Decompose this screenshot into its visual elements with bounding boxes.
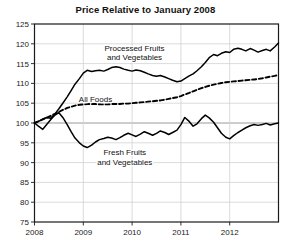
series-annotations: Processed FruitsProcessed Fruitsand Vege… (79, 44, 165, 167)
y-tick-label: 85 (20, 178, 29, 187)
processed-label: Processed Fruits (105, 44, 165, 53)
y-axis-ticks: 7580859095100105110115120125 (16, 20, 35, 227)
y-tick-label: 120 (16, 40, 30, 49)
x-axis-ticks: 20082009201020112012 (26, 222, 240, 237)
fresh-label: and Vegetables (97, 158, 152, 167)
series-line-2 (35, 113, 279, 148)
series-line-1 (35, 75, 279, 123)
y-tick-label: 90 (20, 159, 29, 168)
y-tick-label: 95 (20, 139, 29, 148)
y-tick-label: 100 (16, 119, 30, 128)
y-tick-label: 105 (16, 99, 30, 108)
y-tick-label: 110 (16, 79, 29, 88)
fresh-label: Fresh Fruits (103, 148, 146, 157)
x-tick-label: 2008 (26, 228, 44, 237)
line-chart: 7580859095100105110115120125 20082009201… (0, 0, 291, 247)
y-tick-label: 115 (16, 60, 29, 69)
processed-label: and Vegetables (107, 53, 162, 62)
y-tick-label: 80 (20, 198, 29, 207)
x-tick-label: 2009 (74, 228, 92, 237)
y-tick-label: 125 (16, 20, 30, 29)
x-tick-label: 2010 (123, 228, 141, 237)
x-tick-label: 2011 (172, 228, 190, 237)
chart-container: Price Relative to January 2008 758085909… (0, 0, 291, 247)
y-tick-label: 75 (20, 218, 29, 227)
x-tick-label: 2012 (221, 228, 239, 237)
all-foods-label: All Foods (79, 95, 112, 104)
